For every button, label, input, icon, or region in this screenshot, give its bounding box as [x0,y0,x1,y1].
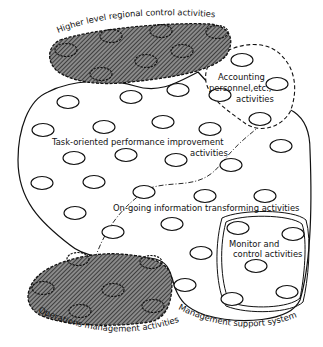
label-task-oriented-2: activities [190,148,228,158]
label-accounting-2: personnel,etc., [209,83,272,93]
label-accounting-1: Accounting [218,72,265,82]
higher-level-control-region [50,24,231,84]
label-accounting-3: activities [236,94,274,104]
label-monitor-1: Monitor and [229,239,279,249]
activity-regions-diagram: Higher level regional control activities… [0,0,323,347]
label-ongoing: On-going information transforming activi… [113,203,299,213]
monitor-control-nodes [221,222,304,306]
label-monitor-2: control activities [233,249,302,259]
label-task-oriented-1: Task-oriented performance improvement [51,137,224,147]
